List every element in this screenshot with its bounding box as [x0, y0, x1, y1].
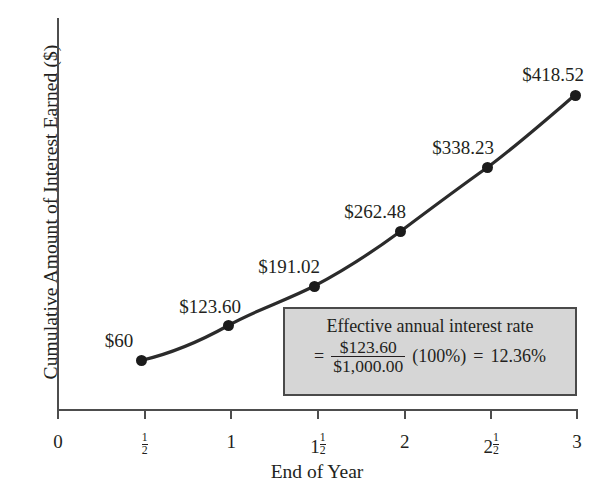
annotation-numerator: $123.60 — [338, 338, 399, 356]
x-tick-label-6-whole: 3 — [572, 431, 582, 452]
data-point — [482, 162, 493, 173]
x-tick-label-3: 112 — [288, 432, 348, 457]
data-label: $418.52 — [522, 64, 584, 86]
x-tick-label-3-whole: 1 — [310, 436, 320, 457]
data-label: $60 — [105, 330, 134, 352]
x-tick-label-1: 12 — [115, 432, 175, 457]
x-tick-label-4-whole: 2 — [400, 431, 410, 452]
data-point — [136, 355, 147, 366]
x-tick-label-5: 212 — [461, 432, 521, 457]
fraction-one-half: 12 — [493, 432, 499, 457]
annotation-fraction: $123.60 $1,000.00 — [331, 338, 405, 375]
data-label: $338.23 — [432, 137, 494, 159]
data-label: $191.02 — [258, 256, 320, 278]
x-tick-label-0-whole: 0 — [53, 431, 63, 452]
fraction-one-half: 12 — [142, 432, 148, 457]
x-tick-label-0: 0 — [28, 432, 88, 451]
x-tick-label-2: 1 — [201, 432, 261, 451]
data-point — [309, 281, 320, 292]
annotation-box: Effective annual interest rate = $123.60… — [283, 307, 577, 396]
x-tick-label-2-whole: 1 — [227, 431, 237, 452]
data-point — [395, 226, 406, 237]
x-tick-label-5-whole: 2 — [484, 436, 494, 457]
data-point — [570, 90, 581, 101]
data-label: $262.48 — [344, 201, 406, 223]
x-tick-label-4: 2 — [375, 432, 435, 451]
annotation-equals-2: = — [473, 346, 483, 367]
x-axis-label: End of Year — [57, 461, 577, 483]
fraction-one-half: 12 — [320, 432, 326, 457]
chart-figure: Cumulative Amount of Interest Earned ($)… — [0, 0, 614, 500]
annotation-title: Effective annual interest rate — [294, 316, 566, 337]
data-point — [223, 320, 234, 331]
data-label: $123.60 — [179, 296, 241, 318]
x-tick-label-6: 3 — [547, 432, 607, 451]
annotation-result: 12.36% — [490, 346, 546, 367]
annotation-denominator: $1,000.00 — [331, 356, 405, 375]
annotation-formula: = $123.60 $1,000.00 (100%) = 12.36% — [294, 338, 566, 375]
annotation-equals: = — [314, 346, 324, 367]
annotation-multiplier: (100%) — [412, 346, 466, 367]
